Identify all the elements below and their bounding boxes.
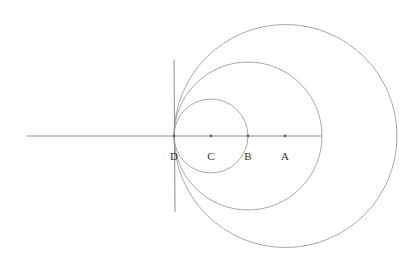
- labels-group: DCBA: [170, 150, 289, 162]
- geometry-diagram: DCBA: [0, 0, 412, 263]
- label-d: D: [170, 150, 178, 162]
- label-c: C: [207, 150, 214, 162]
- point-d: [173, 135, 176, 138]
- point-b: [247, 135, 250, 138]
- point-c: [210, 135, 213, 138]
- point-a: [284, 135, 287, 138]
- label-b: B: [244, 150, 251, 162]
- label-a: A: [281, 150, 289, 162]
